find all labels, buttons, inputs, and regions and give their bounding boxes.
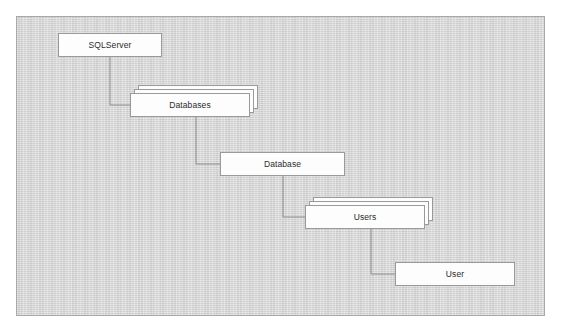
node-user-face: User xyxy=(395,262,515,286)
node-databases-label: Databases xyxy=(169,101,211,110)
node-users-face: Users xyxy=(305,205,425,229)
node-sqlserver-label: SQLServer xyxy=(89,41,132,50)
node-database-face: Database xyxy=(220,152,345,176)
node-user[interactable]: User xyxy=(395,262,515,286)
node-users-label: Users xyxy=(354,213,377,222)
node-database[interactable]: Database xyxy=(220,152,345,176)
node-sqlserver-face: SQLServer xyxy=(58,33,162,57)
node-database-label: Database xyxy=(264,160,301,169)
node-user-label: User xyxy=(446,270,464,279)
node-users[interactable]: Users xyxy=(305,205,425,229)
diagram-root: SQLServer Databases Database Users User xyxy=(0,0,562,333)
node-databases[interactable]: Databases xyxy=(130,93,250,117)
node-sqlserver[interactable]: SQLServer xyxy=(58,33,162,57)
node-databases-face: Databases xyxy=(130,93,250,117)
